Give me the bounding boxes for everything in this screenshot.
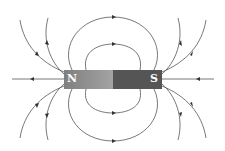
north-pole-label: N [67,72,77,85]
magnetic-field-diagram [0,0,225,151]
south-pole-label: S [150,72,158,85]
